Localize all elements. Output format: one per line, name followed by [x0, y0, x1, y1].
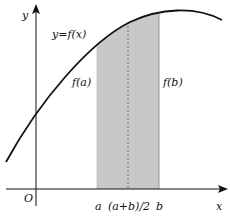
fb-label: f(b) [162, 76, 183, 89]
fa-label: f(a) [71, 76, 91, 89]
integral-diagram: y y=f(x) f(a) f(b) O a (a+b)/2 b x [0, 0, 230, 221]
x-axis-label: x [216, 200, 223, 213]
tick-a-label: a [95, 200, 102, 213]
function-label: y=f(x) [51, 28, 86, 41]
tick-mid-label: (a+b)/2 [108, 200, 150, 213]
tick-b-label: b [156, 200, 163, 213]
origin-label: O [24, 192, 33, 205]
y-axis-label: y [21, 9, 29, 22]
